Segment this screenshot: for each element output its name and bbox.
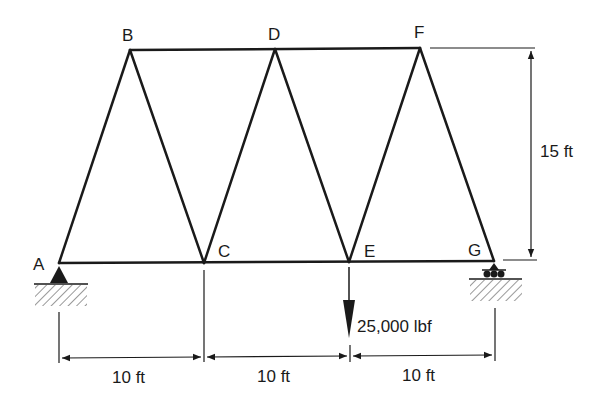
member-FG	[420, 48, 494, 261]
truss-diagram	[0, 0, 604, 412]
node-label-F: F	[414, 24, 424, 41]
roller-support-G	[469, 263, 522, 301]
node-label-G: G	[468, 242, 481, 259]
dimension-span2: 10 ft	[257, 368, 290, 385]
member-DE	[275, 49, 349, 262]
member-EF	[349, 48, 420, 262]
node-label-C: C	[218, 243, 230, 260]
member-bottom-chord	[59, 261, 494, 263]
node-label-B: B	[122, 27, 133, 44]
truss-members	[59, 48, 494, 263]
load-arrow	[343, 267, 355, 338]
member-BC	[130, 50, 204, 263]
load-label: 25,000 lbf	[357, 318, 432, 335]
dimension-lines	[59, 48, 537, 363]
member-CD	[204, 49, 275, 263]
dimension-height: 15 ft	[540, 143, 573, 160]
node-label-D: D	[268, 26, 280, 43]
node-label-A: A	[33, 256, 44, 273]
dimension-span1: 10 ft	[112, 369, 145, 386]
member-AB	[59, 50, 130, 263]
dimension-span3: 10 ft	[402, 367, 435, 384]
node-label-E: E	[364, 243, 375, 260]
